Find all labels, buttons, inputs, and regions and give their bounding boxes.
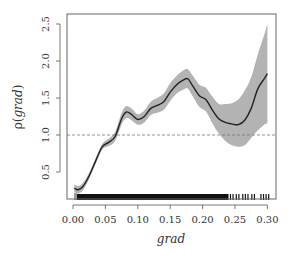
y-tick-label: 1.5	[40, 90, 51, 106]
y-axis-title-prefix: ρ(	[11, 118, 25, 130]
y-axis-title-suffix: )	[11, 85, 25, 90]
x-tick-label: 0.10	[127, 214, 149, 225]
y-axis: 0.51.01.52.02.5	[40, 16, 60, 180]
x-tick-label: 0.05	[94, 214, 116, 225]
x-tick-label: 0.25	[224, 214, 246, 225]
x-tick-label: 0.15	[159, 214, 181, 225]
y-axis-title: ρ(grad)	[11, 85, 25, 130]
y-tick-label: 1.0	[40, 127, 51, 143]
x-tick-label: 0.20	[191, 214, 213, 225]
y-tick-label: 0.5	[40, 164, 51, 180]
x-axis-title: grad	[157, 232, 186, 246]
x-axis: 0.000.050.100.150.200.250.30	[62, 205, 279, 225]
density-ratio-chart: 0.000.050.100.150.200.250.30 0.51.01.52.…	[0, 0, 292, 257]
y-tick-label: 2.0	[40, 53, 51, 69]
y-tick-label: 2.5	[40, 16, 51, 32]
x-tick-label: 0.30	[256, 214, 278, 225]
y-axis-title-var: grad	[11, 89, 25, 118]
confidence-band	[74, 24, 267, 193]
confidence-band-area	[74, 24, 267, 193]
x-tick-label: 0.00	[62, 214, 84, 225]
